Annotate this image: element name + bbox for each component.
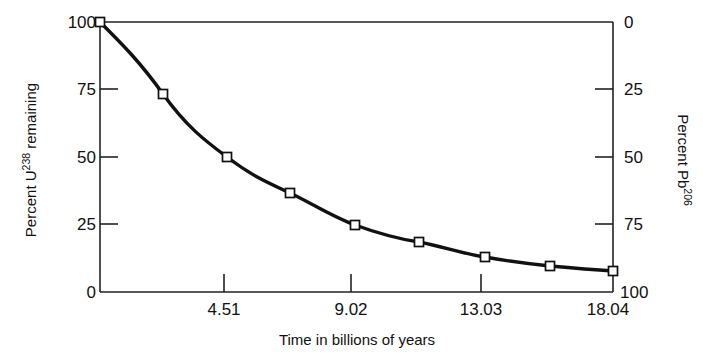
decay-curve-chart: 100 75 50 25 0 0 25 50 75 100 4.51 9.02 … [0,0,703,362]
x-tick-label-4: 18.04 [587,300,630,319]
y-axis-right-title-prefix: Percent Pb [675,114,692,188]
x-tick-label-1: 4.51 [207,300,240,319]
data-point [609,267,618,276]
y-tick-label-25: 25 [77,215,96,234]
data-point [351,221,360,230]
y-tick-right-label-75: 75 [624,215,643,234]
data-point [415,238,424,247]
data-point [159,90,168,99]
x-tick-label-3: 13.03 [460,300,503,319]
data-point [546,262,555,271]
y-axis-left-title-tail: remaining [22,83,39,153]
y-axis-right-title-superscript: 206 [682,188,694,206]
x-axis-title: Time in billions of years [279,331,435,348]
y-axis-left-title-superscript: 238 [20,153,32,171]
y-tick-label-100: 100 [68,13,96,32]
data-point [481,253,490,262]
y-tick-label-75: 75 [77,80,96,99]
y-tick-right-label-0: 0 [624,13,633,32]
y-tick-right-label-50: 50 [624,148,643,167]
chart-figure: 100 75 50 25 0 0 25 50 75 100 4.51 9.02 … [0,0,703,362]
y-axis-left-title-prefix: Percent U [22,170,39,237]
x-tick-label-2: 9.02 [334,300,367,319]
y-tick-right-label-25: 25 [624,80,643,99]
data-point [286,189,295,198]
y-tick-label-0: 0 [87,283,96,302]
data-point [223,153,232,162]
data-point [96,18,105,27]
y-tick-label-50: 50 [77,148,96,167]
